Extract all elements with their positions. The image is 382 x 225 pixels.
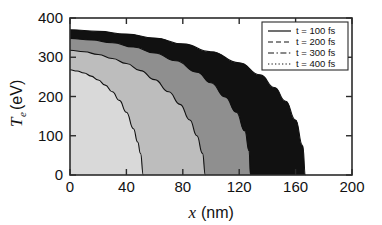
y-tick-label: 100: [38, 127, 63, 144]
y-tick-label: 0: [55, 166, 63, 183]
legend: t = 100 fst = 200 fst = 300 fst = 400 fs: [262, 22, 348, 70]
y-axis-title: T e (eV): [7, 80, 28, 127]
y-tick-label: 400: [38, 9, 63, 26]
y-tick-label: 200: [38, 88, 63, 105]
y-axis-title-subscript: e: [16, 112, 28, 117]
legend-label: t = 200 fs: [296, 36, 336, 47]
chart-svg: 04080120160200 0100200300400 x (nm) T e …: [0, 0, 382, 225]
x-tick-label: 200: [339, 178, 364, 195]
x-tick-label: 40: [118, 178, 135, 195]
x-tick-label: 80: [174, 178, 191, 195]
x-axis-title: x (nm): [187, 203, 233, 222]
x-axis-title-symbol: x: [187, 203, 196, 222]
x-axis-tick-labels: 04080120160200: [66, 178, 365, 195]
legend-label: t = 100 fs: [296, 25, 336, 36]
y-axis-tick-labels: 0100200300400: [38, 9, 63, 183]
x-tick-label: 120: [227, 178, 252, 195]
x-axis-title-unit: (nm): [201, 204, 234, 221]
x-tick-label: 0: [66, 178, 74, 195]
x-tick-label: 160: [283, 178, 308, 195]
legend-label: t = 300 fs: [296, 47, 336, 58]
figure-container: 04080120160200 0100200300400 x (nm) T e …: [0, 0, 382, 225]
y-axis-title-unit: (eV): [8, 80, 25, 110]
y-tick-label: 300: [38, 48, 63, 65]
legend-label: t = 400 fs: [296, 58, 336, 69]
